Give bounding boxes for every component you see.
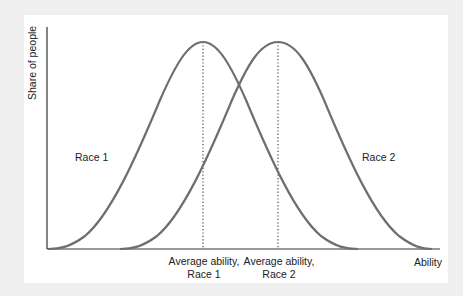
series-label-race-2: Race 2: [362, 151, 395, 164]
series-label-race-1: Race 1: [75, 151, 108, 164]
y-axis-label: Share of people: [26, 26, 38, 100]
annotation-line-2: Race 2: [233, 268, 325, 281]
annotation-average-race-2: Average ability, Race 2: [233, 255, 325, 281]
chart-canvas: [0, 0, 463, 296]
x-axis-label: Ability: [414, 256, 442, 269]
annotation-line-1: Average ability,: [233, 255, 325, 268]
curve-race-2: [120, 42, 432, 249]
